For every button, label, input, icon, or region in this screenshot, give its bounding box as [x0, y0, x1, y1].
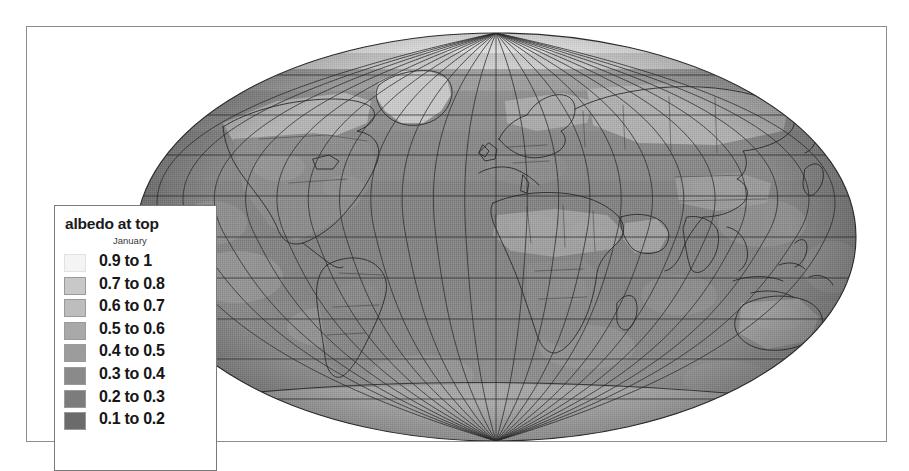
- legend-entry[interactable]: 0.3 to 0.4: [55, 365, 216, 388]
- legend-entry[interactable]: 0.6 to 0.7: [55, 297, 216, 320]
- legend-entry-label: 0.6 to 0.7: [99, 297, 164, 315]
- legend-color-swatch: [64, 277, 86, 295]
- legend-entry-label: 0.3 to 0.4: [99, 365, 164, 383]
- legend-entry[interactable]: 0.5 to 0.6: [55, 320, 216, 343]
- legend-color-swatch: [64, 299, 86, 317]
- legend-entry-label: 0.9 to 1: [99, 252, 152, 270]
- figure-frame: albedo at top January 0.9 to 10.7 to 0.8…: [26, 26, 887, 442]
- legend-title: albedo at top: [65, 215, 159, 233]
- legend-entry-label: 0.7 to 0.8: [99, 275, 164, 293]
- legend-entry[interactable]: 0.7 to 0.8: [55, 275, 216, 298]
- legend-color-swatch: [64, 254, 86, 272]
- legend-entry[interactable]: 0.9 to 1: [55, 252, 216, 275]
- legend-entry-label: 0.1 to 0.2: [99, 410, 164, 428]
- map-legend[interactable]: albedo at top January 0.9 to 10.7 to 0.8…: [54, 205, 217, 471]
- legend-entry[interactable]: 0.2 to 0.3: [55, 388, 216, 411]
- legend-color-swatch: [64, 390, 86, 408]
- legend-color-swatch: [64, 322, 86, 340]
- legend-color-swatch: [64, 344, 86, 362]
- legend-entry[interactable]: 0.1 to 0.2: [55, 410, 216, 433]
- globe-limb-shading: [136, 33, 856, 441]
- legend-entry[interactable]: 0.4 to 0.5: [55, 342, 216, 365]
- legend-entry-label: 0.2 to 0.3: [99, 388, 164, 406]
- legend-color-swatch: [64, 367, 86, 385]
- legend-entry-list: 0.9 to 10.7 to 0.80.6 to 0.70.5 to 0.60.…: [55, 252, 216, 433]
- legend-color-swatch: [64, 412, 86, 430]
- legend-entry-label: 0.4 to 0.5: [99, 342, 164, 360]
- legend-entry-label: 0.5 to 0.6: [99, 320, 164, 338]
- legend-subtitle: January: [113, 235, 147, 246]
